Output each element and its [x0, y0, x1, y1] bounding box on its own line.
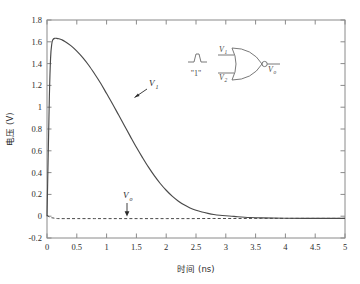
annotation-v1: V 1 — [135, 78, 159, 98]
input-pulse-waveform-icon — [188, 54, 207, 62]
y-tick-label: 0.8 — [31, 124, 42, 134]
v0-label-subscript: o — [130, 196, 133, 202]
x-tick-label: 0 — [45, 242, 49, 252]
gate-body-outline — [232, 48, 262, 80]
y-tick-label: 0.2 — [31, 189, 42, 199]
nor-gate-inset: "1" V 1 V 2 V o — [188, 45, 280, 83]
y-axis-ticks: -0.200.20.40.60.811.21.41.61.8 — [29, 15, 345, 243]
y-tick-label: 1 — [38, 102, 42, 112]
x-tick-label: 4 — [283, 242, 288, 252]
data-series-group — [47, 38, 345, 218]
v1-label-subscript: 1 — [156, 84, 159, 90]
input-logic-one-label: "1" — [191, 69, 202, 78]
x-tick-label: 0.5 — [71, 242, 82, 252]
y-tick-label: 1.4 — [31, 59, 42, 69]
y-tick-label: -0.2 — [29, 233, 42, 243]
x-tick-label: 1 — [104, 242, 108, 252]
gate-inversion-bubble — [262, 61, 267, 66]
gate-input2-subscript: 2 — [225, 77, 228, 83]
voltage-vs-time-chart: -0.200.20.40.60.811.21.41.61.8 00.511.52… — [0, 0, 360, 284]
x-tick-label: 3 — [224, 242, 228, 252]
series-line-v1 — [47, 38, 345, 218]
v0-arrow-head — [125, 211, 130, 216]
gate-input1-subscript: 1 — [225, 49, 228, 55]
y-tick-label: 1.8 — [31, 15, 42, 25]
gate-back-arc — [232, 48, 236, 80]
annotation-v0: V o — [123, 190, 133, 217]
y-tick-label: 0.4 — [31, 168, 42, 178]
y-tick-label: 0 — [38, 211, 42, 221]
x-tick-label: 3.5 — [250, 242, 261, 252]
x-tick-label: 5 — [343, 242, 347, 252]
gate-output-subscript: o — [274, 69, 277, 75]
y-tick-label: 1.6 — [31, 37, 42, 47]
x-axis-title: 时间 (ns) — [177, 264, 214, 274]
y-axis-title: 电压 (V) — [5, 112, 15, 145]
plot-frame — [47, 20, 345, 238]
x-tick-label: 1.5 — [131, 242, 142, 252]
x-tick-label: 2.5 — [191, 242, 202, 252]
y-tick-label: 0.6 — [31, 146, 42, 156]
y-tick-label: 1.2 — [31, 80, 42, 90]
x-tick-label: 2 — [164, 242, 168, 252]
chart-container: -0.200.20.40.60.811.21.41.61.8 00.511.52… — [0, 0, 360, 284]
x-tick-label: 4.5 — [310, 242, 321, 252]
